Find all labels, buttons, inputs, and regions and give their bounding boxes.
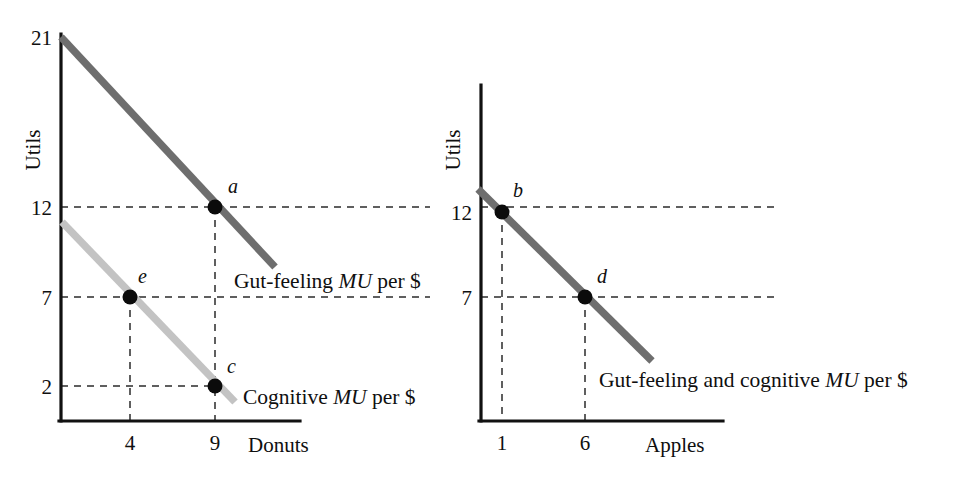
datapoint-c — [208, 379, 223, 394]
curve-label-gut-and-cognitive-apples: Gut-feeling and cognitive MU per $ — [599, 368, 908, 392]
datapoint-e — [123, 290, 138, 305]
curve-label-cognitive-prefix: Cognitive — [243, 385, 333, 409]
curve-label-gut-feeling-donuts: Gut-feeling MU per $ — [234, 269, 421, 293]
left-y-tick-2: 2 — [42, 375, 53, 399]
left-x-axis-title: Donuts — [248, 433, 309, 457]
datapoint-b — [495, 205, 510, 220]
curve-label-both-mu: MU — [824, 368, 860, 392]
curve-label-gut-suffix: per $ — [372, 269, 421, 293]
left-x-tick-9: 9 — [210, 431, 221, 455]
right-y-tick-7: 7 — [462, 286, 473, 310]
right-panel: b d 12 7 1 6 Utils Apples Gut-feeling an… — [441, 85, 908, 457]
left-panel: a e c 21 12 7 2 4 9 Utils Donuts Gut-fee… — [21, 26, 430, 457]
figure-root: a e c 21 12 7 2 4 9 Utils Donuts Gut-fee… — [0, 0, 960, 483]
curve-label-cognitive-donuts: Cognitive MU per $ — [243, 385, 416, 409]
curve-gut-feeling-donuts — [61, 37, 275, 267]
curve-label-gut-mu: MU — [337, 269, 373, 293]
curve-label-gut-prefix: Gut-feeling — [234, 269, 338, 293]
left-x-tick-4: 4 — [125, 431, 136, 455]
curve-label-cognitive-mu: MU — [332, 385, 368, 409]
point-label-a: a — [228, 175, 238, 197]
left-y-tick-7: 7 — [42, 286, 53, 310]
point-label-e: e — [138, 265, 147, 287]
curve-cognitive-donuts — [62, 222, 235, 402]
marginal-utility-figure: a e c 21 12 7 2 4 9 Utils Donuts Gut-fee… — [0, 0, 960, 483]
right-x-tick-6: 6 — [580, 431, 591, 455]
left-y-tick-21: 21 — [31, 26, 52, 50]
left-y-tick-12: 12 — [31, 196, 52, 220]
point-label-c: c — [227, 355, 236, 377]
curve-label-both-suffix: per $ — [859, 368, 908, 392]
curve-label-cognitive-suffix: per $ — [367, 385, 416, 409]
point-label-d: d — [597, 265, 608, 287]
left-y-axis-title: Utils — [21, 130, 45, 171]
point-label-b: b — [513, 179, 523, 201]
right-y-tick-12: 12 — [451, 201, 472, 225]
right-y-axis-title: Utils — [441, 130, 465, 171]
right-x-axis-title: Apples — [645, 433, 705, 457]
right-x-tick-1: 1 — [497, 431, 508, 455]
datapoint-d — [578, 290, 593, 305]
curve-label-both-prefix: Gut-feeling and cognitive — [599, 368, 825, 392]
datapoint-a — [208, 200, 223, 215]
